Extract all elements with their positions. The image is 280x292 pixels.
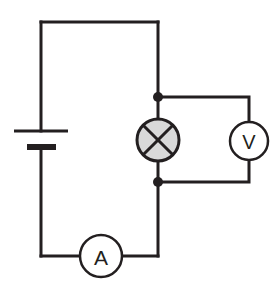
- wire-voltmeter-bottom-lead: [158, 160, 249, 182]
- battery-symbol: [14, 131, 68, 147]
- circuit-diagram: V A: [0, 0, 280, 292]
- junction-dot-top: [153, 92, 163, 102]
- wire-voltmeter-top-lead: [158, 97, 249, 122]
- lamp-symbol: [137, 119, 179, 161]
- voltmeter-label: V: [242, 131, 256, 153]
- ammeter-symbol: A: [80, 235, 122, 277]
- voltmeter-symbol: V: [230, 122, 268, 160]
- circuit-diagram-canvas: V A: [0, 0, 280, 292]
- ammeter-label: A: [94, 246, 108, 269]
- junction-dot-bottom: [153, 177, 163, 187]
